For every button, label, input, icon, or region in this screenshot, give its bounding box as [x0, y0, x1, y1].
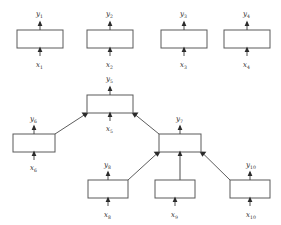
edge-b7-to-b5: [135, 115, 159, 135]
block-3-input-label: x3: [180, 61, 187, 70]
block-8-output-label: y8: [103, 161, 111, 170]
block-8-rect[interactable]: [88, 180, 128, 198]
block-7-output-label: y7: [175, 115, 183, 124]
block-6-rect[interactable]: [13, 134, 55, 152]
block-8-output-arrowhead: [106, 171, 111, 177]
block-3-group[interactable]: y3 x3: [161, 10, 207, 70]
composite-block-7-rect[interactable]: [159, 134, 201, 152]
block-6-output-arrowhead: [32, 125, 37, 131]
block-10-rect[interactable]: [230, 180, 270, 198]
edge-b8-to-b7: [128, 154, 157, 181]
composite-block-5-rect[interactable]: [87, 95, 133, 113]
block-5-output-arrowhead: [108, 86, 113, 92]
block-9-group[interactable]: x9: [155, 180, 195, 220]
block-6-output-label: y6: [29, 115, 37, 124]
block-10-output-arrowhead: [248, 171, 253, 177]
block-10-output-label: y10: [245, 161, 256, 170]
block-3-rect[interactable]: [161, 30, 207, 48]
block-1-rect[interactable]: [17, 30, 63, 48]
block-9-rect[interactable]: [155, 180, 195, 198]
block-10-group[interactable]: y10 x10: [230, 161, 270, 220]
block-4-output-arrowhead: [245, 21, 250, 27]
block-2-input-label: x2: [106, 61, 113, 70]
block-8-input-label: x8: [104, 211, 111, 220]
edge-b10-to-b7: [203, 154, 230, 181]
block-1-group[interactable]: y1 x1: [17, 10, 63, 70]
block-2-group[interactable]: y2 x2: [87, 10, 133, 70]
diagram-canvas: y1 x1 y2 x2 y3 x3: [0, 0, 281, 225]
block-2-rect[interactable]: [87, 30, 133, 48]
block-2-output-arrowhead: [108, 21, 113, 27]
block-1-input-label: x1: [36, 61, 43, 70]
block-10-input-label: x10: [246, 211, 256, 220]
block-5-input-label: x5: [106, 125, 113, 134]
block-3-output-arrowhead: [182, 21, 187, 27]
block-4-rect[interactable]: [224, 30, 270, 48]
block-diagram: y1 x1 y2 x2 y3 x3: [0, 0, 281, 225]
block-4-output-label: y4: [242, 10, 250, 19]
block-2-output-label: y2: [105, 10, 113, 19]
block-4-group[interactable]: y4 x4: [224, 10, 270, 70]
block-7-output-arrowhead: [178, 125, 183, 131]
block-6-input-label: x6: [30, 164, 37, 173]
block-6-group[interactable]: y6 x6: [13, 115, 55, 173]
edge-b6-to-b5: [55, 115, 85, 135]
composite-block-7-group[interactable]: y7: [159, 115, 201, 180]
block-9-input-label: x9: [171, 211, 178, 220]
block-4-input-label: x4: [243, 61, 250, 70]
block-3-output-label: y3: [179, 10, 187, 19]
composite-block-5-group[interactable]: y5 x5: [87, 75, 133, 134]
block-1-output-arrowhead: [38, 21, 43, 27]
block-8-group[interactable]: y8 x8: [88, 161, 128, 220]
block-1-output-label: y1: [35, 10, 43, 19]
block-5-output-label: y5: [105, 75, 113, 84]
